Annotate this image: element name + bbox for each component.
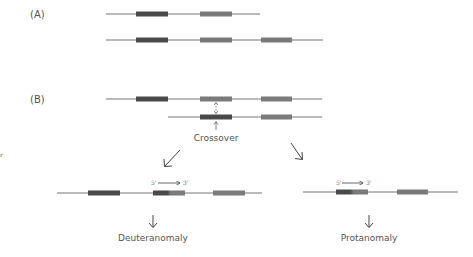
red-opsin-gene bbox=[136, 97, 168, 102]
green-opsin-gene bbox=[261, 97, 292, 102]
chromosome-b2 bbox=[168, 115, 322, 120]
panel-a-label: (A) bbox=[30, 9, 45, 20]
green-opsin-gene bbox=[200, 97, 232, 102]
deuteranomaly-label: Deuteranomaly bbox=[118, 233, 188, 243]
crossover-pointer bbox=[214, 122, 218, 131]
panel-b-label: (B) bbox=[30, 94, 45, 105]
arrow-to-deuteranomaly bbox=[164, 150, 180, 167]
hybrid-opsin-gene bbox=[336, 190, 368, 195]
red-opsin-gene bbox=[200, 115, 232, 120]
crossover-label: Crossover bbox=[194, 133, 239, 143]
chromosome-b1 bbox=[106, 97, 322, 102]
stray-mark: r bbox=[0, 151, 3, 158]
chromosome-a1 bbox=[106, 12, 260, 17]
chromosome-deuteranomaly: 5' 3' bbox=[57, 179, 262, 196]
protanomaly-label: Protanomaly bbox=[341, 233, 398, 243]
opsin-crossover-diagram: (A) (B) r Crossover bbox=[0, 0, 473, 257]
down-arrow-deuteranomaly bbox=[149, 215, 157, 228]
red-opsin-gene bbox=[88, 191, 120, 196]
red-opsin-gene bbox=[136, 12, 168, 17]
three-prime-label: 3' bbox=[183, 179, 189, 186]
crossover-indicator bbox=[214, 103, 218, 114]
chromosome-a2 bbox=[106, 38, 323, 43]
green-opsin-gene bbox=[200, 12, 232, 17]
arrow-to-protanomaly bbox=[291, 143, 303, 160]
five-prime-label: 5' bbox=[151, 179, 157, 186]
green-opsin-gene bbox=[200, 38, 232, 43]
hybrid-opsin-gene bbox=[153, 191, 185, 196]
red-opsin-gene bbox=[136, 38, 168, 43]
down-arrow-protanomaly bbox=[365, 215, 373, 228]
green-opsin-gene bbox=[397, 190, 428, 195]
three-prime-label: 3' bbox=[366, 179, 372, 186]
green-opsin-gene bbox=[213, 191, 245, 196]
five-prime-label: 5' bbox=[336, 179, 342, 186]
green-opsin-gene bbox=[261, 38, 292, 43]
green-opsin-gene bbox=[261, 115, 292, 120]
chromosome-protanomaly: 5' 3' bbox=[303, 179, 458, 195]
